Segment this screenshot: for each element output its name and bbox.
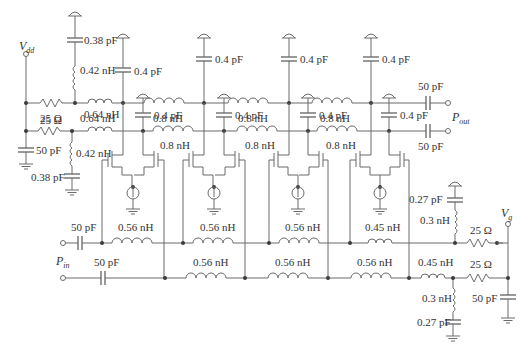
- stage-4: [350, 103, 409, 278]
- cap-label: 50 pF: [94, 256, 119, 268]
- choke-label: 0.42 nH: [76, 147, 112, 159]
- svg-text:0.4 pF: 0.4 pF: [300, 53, 328, 65]
- resistor-25ohm-bottom: [26, 127, 74, 135]
- cap-label: 50 pF: [418, 140, 443, 152]
- cap-label: 50 pF: [418, 80, 443, 92]
- resistor-25ohm-top: [40, 99, 62, 107]
- gate-line-bottom: Pin 50 pF 0.56 nH 0.56 nH 0.56 nH 0.45 n…: [55, 254, 510, 341]
- shunt-caps-top: 0.4 pF 0.4 pF 0.4 pF 0.4 pF: [115, 34, 410, 103]
- inductor-label: 0.8 nH: [245, 139, 275, 151]
- inductor-label: 0.56 nH: [118, 221, 154, 233]
- inductor-label: 0.45 nH: [418, 256, 454, 268]
- inductor-label: 0.56 nH: [357, 256, 393, 268]
- inductor-label: 0.8 nH: [160, 139, 190, 151]
- drain-line-bottom: 25 Ω 50 pF 0.42 nH 0.38 pF 0.64 nH 0.8 n…: [18, 94, 470, 195]
- vg-terminal[interactable]: [506, 222, 511, 227]
- cap-label: 0.38 pF: [84, 34, 118, 46]
- choke-label: 0.3 nH: [420, 214, 450, 226]
- stage-3: [269, 103, 328, 278]
- resistor-label: 25 Ω: [470, 258, 492, 270]
- pout-label: Pout: [451, 110, 470, 126]
- inductor-0.8nH-top-1: [144, 98, 184, 103]
- inductor-label: 0.56 nH: [200, 221, 236, 233]
- svg-text:0.4 pF: 0.4 pF: [154, 109, 182, 121]
- amplifier-schematic: Vdd 25 Ω 0.38 pF 0.42 nH 0.64 nH 0.8 nH …: [0, 0, 531, 354]
- shunt-caps-bottom: 0.4 pF 0.4 pF 0.4 pF 0.4 pF: [135, 94, 428, 131]
- inductor-label: 0.8 nH: [326, 139, 356, 151]
- choke-label: 0.42 nH: [80, 64, 116, 76]
- cap-label: 50 pF: [71, 221, 96, 233]
- inductor-0.64nH-top: [88, 99, 112, 103]
- cap-label: 50 pF: [472, 292, 497, 304]
- cap-label: 50 pF: [36, 144, 61, 156]
- svg-text:0.4 pF: 0.4 pF: [134, 65, 162, 77]
- pin-terminal[interactable]: [61, 276, 66, 281]
- cap-label: 0.27 pF: [417, 316, 451, 328]
- resistor-label: 25 Ω: [40, 114, 62, 126]
- choke-label: 0.3 nH: [422, 292, 452, 304]
- inductor-label: 0.45 nH: [365, 221, 401, 233]
- svg-text:0.4 pF: 0.4 pF: [319, 109, 347, 121]
- resistor-label: 25 Ω: [470, 224, 492, 236]
- inductor-0.8nH-top-3: [312, 98, 352, 103]
- inductor-label: 0.56 nH: [285, 221, 321, 233]
- transistor-stages: [102, 103, 409, 278]
- cap-label: 0.38 pF: [31, 171, 65, 183]
- choke-0.42nH-bottom: [70, 142, 72, 166]
- cap-label: 0.27 pF: [409, 193, 443, 205]
- pout-terminal-bottom[interactable]: [446, 129, 451, 134]
- pin-label: Pin: [55, 254, 70, 270]
- svg-text:0.4 pF: 0.4 pF: [215, 53, 243, 65]
- svg-text:0.4 pF: 0.4 pF: [235, 109, 263, 121]
- svg-text:0.4 pF: 0.4 pF: [382, 53, 410, 65]
- inductor-label: 0.56 nH: [193, 256, 229, 268]
- pout-terminal-top[interactable]: [446, 101, 451, 106]
- inductor-label: 0.56 nH: [275, 256, 311, 268]
- choke-0.42nH-top: [73, 66, 75, 90]
- vg-label: Vg: [501, 206, 512, 222]
- gate-input-terminal-top[interactable]: [61, 241, 66, 246]
- inductor-0.8nH-top-2: [228, 98, 268, 103]
- inductor-label: 0.64 nH: [84, 108, 120, 120]
- svg-text:0.4 pF: 0.4 pF: [400, 109, 428, 121]
- vdd-label: Vdd: [19, 39, 35, 55]
